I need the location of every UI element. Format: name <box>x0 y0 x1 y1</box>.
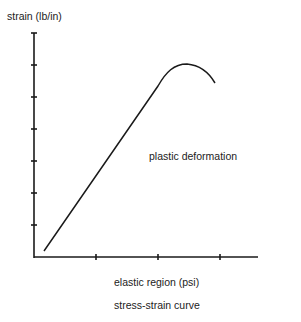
chart-title: stress-strain curve <box>114 299 200 311</box>
x-axis <box>34 254 258 260</box>
plastic-deformation-annotation: plastic deformation <box>149 150 237 162</box>
y-axis <box>31 33 37 258</box>
x-axis-label: elastic region (psi) <box>114 276 199 288</box>
